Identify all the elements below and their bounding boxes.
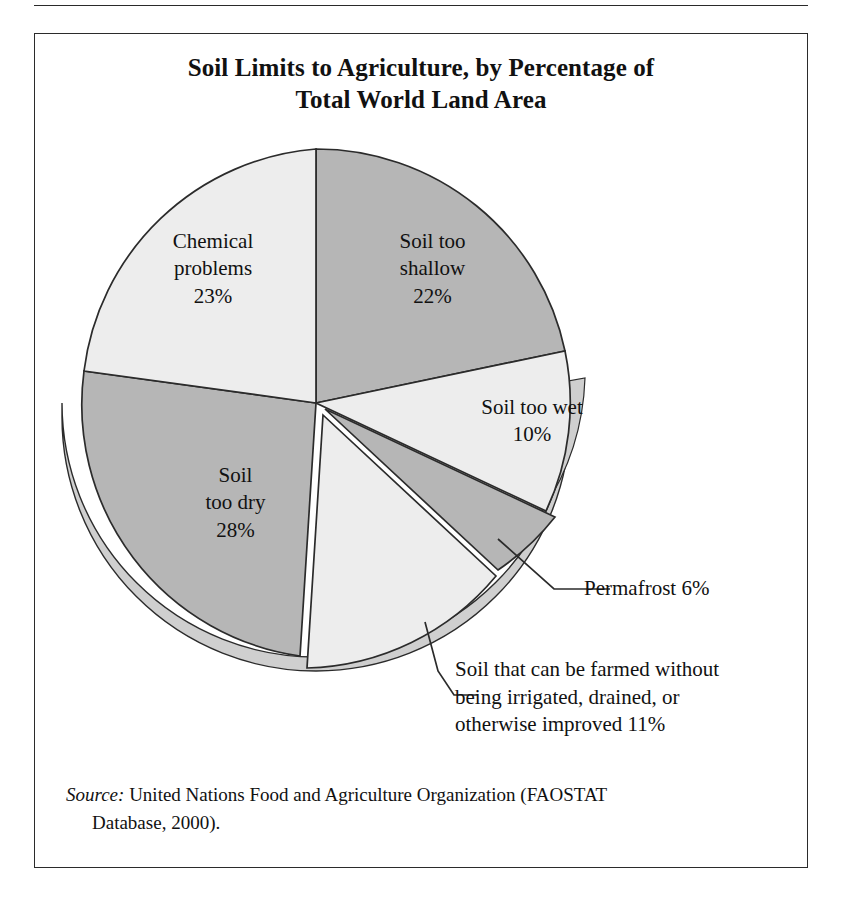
chemical-line-1: Chemical: [118, 228, 308, 255]
permafrost-text: Permafrost 6%: [584, 575, 814, 603]
pie-chart: [34, 33, 808, 868]
slice-label-chemical-problems: Chemical problems 23%: [118, 228, 308, 310]
dry-value: 28%: [148, 517, 323, 544]
slice-label-soil-too-wet: Soil too wet 10%: [437, 394, 627, 449]
dry-line-1: Soil: [148, 462, 323, 489]
shallow-line-1: Soil too: [340, 228, 525, 255]
farmable-line-2: being irrigated, drained, or: [455, 684, 785, 712]
farmable-line-3: otherwise improved 11%: [455, 711, 785, 739]
wet-value: 10%: [437, 421, 627, 448]
source-label: Source:: [66, 784, 124, 805]
shallow-line-2: shallow: [340, 255, 525, 282]
slice-label-soil-too-shallow: Soil too shallow 22%: [340, 228, 525, 310]
callout-label-permafrost: Permafrost 6%: [584, 575, 814, 603]
callout-label-farmable-soil: Soil that can be farmed without being ir…: [455, 656, 785, 739]
pie-chart-svg: [34, 33, 808, 868]
chemical-line-2: problems: [118, 255, 308, 282]
source-line-1: United Nations Food and Agriculture Orga…: [124, 784, 607, 805]
shallow-value: 22%: [340, 283, 525, 310]
source-note: Source: United Nations Food and Agricult…: [66, 781, 766, 836]
wet-line-1: Soil too wet: [437, 394, 627, 421]
dry-line-2: too dry: [148, 489, 323, 516]
page-top-rule: [34, 5, 808, 6]
slice-label-soil-too-dry: Soil too dry 28%: [148, 462, 323, 544]
farmable-line-1: Soil that can be farmed without: [455, 656, 785, 684]
source-line-2: Database, 2000).: [66, 809, 766, 837]
chemical-value: 23%: [118, 283, 308, 310]
